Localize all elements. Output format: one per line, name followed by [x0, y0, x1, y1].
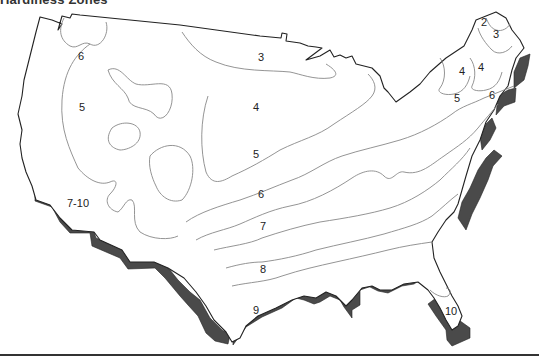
zone-label-10-florida: 10 [445, 305, 457, 317]
bottom-divider [0, 354, 539, 356]
hardiness-zone-map: 2 3 4 4 5 6 6 5 3 4 5 6 7 7-10 8 9 10 [0, 0, 539, 361]
zone-label-7-10-southwest: 7-10 [67, 197, 89, 209]
zone-label-5-central: 5 [253, 148, 259, 160]
us-outline [18, 12, 524, 342]
zone-label-5-west: 5 [79, 101, 85, 113]
zone-label-6-northwest: 6 [78, 50, 84, 62]
zone-label-8-south: 8 [260, 263, 266, 275]
zone-label-4-central: 4 [253, 101, 259, 113]
zone-label-3-northeast: 3 [493, 28, 499, 40]
zone-label-5-northeast: 5 [454, 92, 460, 104]
zone-label-4-northeast-b: 4 [478, 61, 484, 73]
zone-label-6-northeast: 6 [489, 89, 495, 101]
zone-label-6-central: 6 [258, 188, 264, 200]
zone-label-9-south: 9 [253, 304, 259, 316]
zone-label-2-northeast: 2 [481, 16, 487, 28]
zone-label-7-central: 7 [260, 220, 266, 232]
zone-label-4-northeast-a: 4 [459, 65, 465, 77]
zone-label-3-north: 3 [258, 51, 264, 63]
